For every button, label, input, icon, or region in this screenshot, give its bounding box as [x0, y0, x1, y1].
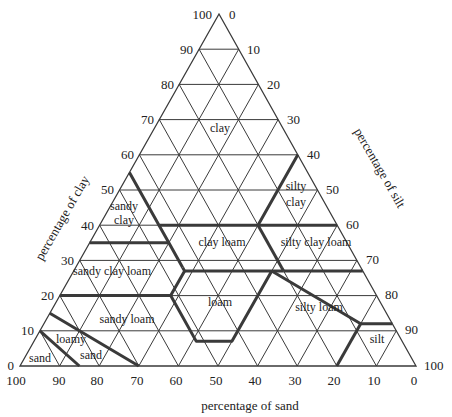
- sand-tick: 100: [6, 373, 26, 388]
- zone-boundary: [282, 267, 284, 271]
- grid-line: [120, 190, 219, 366]
- sand-tick: 70: [131, 373, 144, 388]
- sand-axis-label: percentage of sand: [201, 398, 299, 413]
- sand-axis-ticks: 100 90 80 70 60 50 40 30 20 10 0: [6, 373, 417, 388]
- silt-tick: 50: [326, 182, 339, 197]
- zone-label-sandy-clay: sandy: [110, 199, 138, 213]
- sand-tick: 40: [249, 373, 262, 388]
- silt-tick: 100: [424, 358, 444, 373]
- silt-tick: 60: [346, 217, 359, 232]
- clay-tick: 70: [141, 112, 154, 127]
- zone-label-silty-clay: silty: [286, 179, 307, 193]
- zone-boundary: [159, 225, 183, 267]
- clay-tick: 60: [121, 147, 134, 162]
- zone-label-loam: loam: [208, 295, 233, 309]
- sand-tick: 0: [411, 373, 418, 388]
- zone-boundary: [272, 271, 393, 324]
- clay-tick: 20: [41, 288, 54, 303]
- zone-label-loamy-sand: loamy: [56, 332, 86, 346]
- silt-tick: 90: [405, 322, 418, 337]
- zone-boundary: [337, 324, 361, 366]
- zone-label-silty-clay-loam: silty clay loam: [281, 235, 352, 249]
- clay-tick: 80: [161, 77, 174, 92]
- clay-tick: 90: [180, 42, 193, 57]
- grid-lines: [40, 49, 396, 366]
- zone-label-sand: sand: [29, 351, 51, 365]
- clay-tick: 40: [81, 218, 94, 233]
- zone-label-sandy-loam: sandy loam: [100, 312, 156, 326]
- silt-tick: 10: [247, 42, 260, 57]
- clay-tick: 50: [101, 182, 114, 197]
- silt-tick: 20: [267, 77, 280, 92]
- soil-texture-triangle: 0 10 20 30 40 50 60 70 80 90 100 0 10 20…: [0, 0, 452, 417]
- zone-label-clay: clay: [210, 121, 230, 135]
- silt-tick: 0: [229, 7, 236, 22]
- silt-tick: 30: [287, 112, 300, 127]
- zone-label-silty-loam: silty loam: [295, 300, 343, 314]
- silt-tick: 40: [307, 147, 320, 162]
- clay-tick: 10: [21, 323, 34, 338]
- clay-tick: 0: [8, 358, 15, 373]
- sand-tick: 10: [368, 373, 381, 388]
- zone-label-loamy-sand: sand: [80, 348, 102, 362]
- zone-labels: clay silty clay sandy clay clay loam sil…: [29, 121, 385, 365]
- sand-tick: 90: [53, 373, 66, 388]
- silt-tick: 70: [366, 252, 379, 267]
- zone-label-sandy-clay-loam: sandy clay loam: [73, 264, 152, 278]
- sand-tick: 60: [170, 373, 183, 388]
- silt-tick: 80: [385, 287, 398, 302]
- zone-label-clay-loam: clay loam: [199, 235, 247, 249]
- sand-tick: 20: [328, 373, 341, 388]
- sand-tick: 80: [91, 373, 104, 388]
- zone-boundary: [258, 225, 282, 267]
- silt-axis-label: percentage of silt: [351, 125, 409, 210]
- clay-tick: 100: [193, 7, 213, 22]
- zone-label-silt: silt: [370, 332, 385, 346]
- zone-label-sandy-clay: clay: [114, 213, 134, 227]
- sand-tick: 50: [210, 373, 223, 388]
- zone-label-silty-clay: clay: [286, 195, 306, 209]
- sand-tick: 30: [289, 373, 302, 388]
